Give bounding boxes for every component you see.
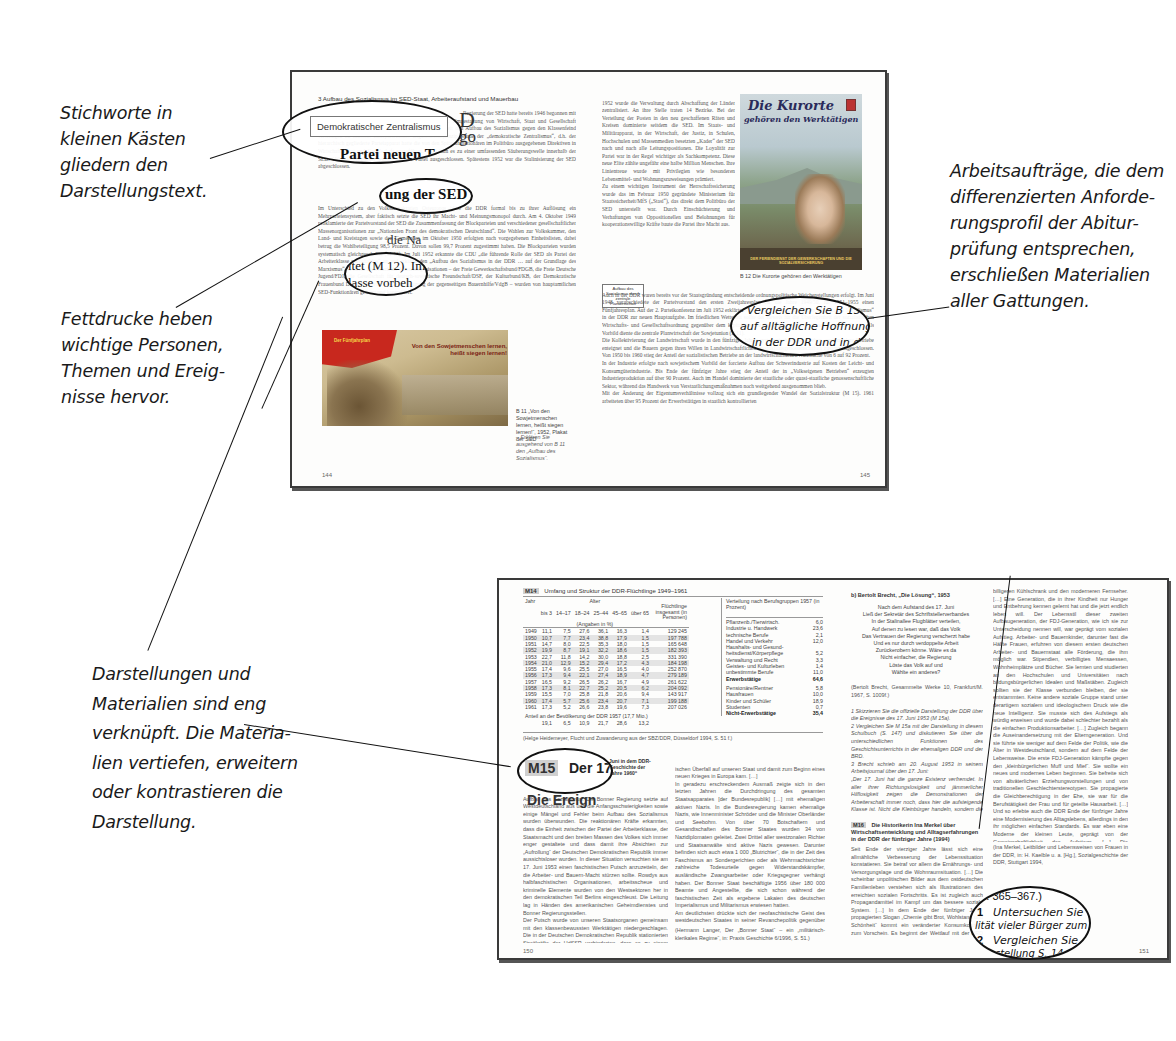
page-number-145: 145 <box>860 472 870 478</box>
m14-professions: Verteilung nach Berufsgruppen 1957 (in P… <box>721 598 823 716</box>
book-spread-144-145: 3 Aufbau des Sozialismus im SED-Staat, A… <box>290 70 887 488</box>
m14-source: (Helge Heidemeyer, Flucht und Zuwanderun… <box>523 732 823 741</box>
m14-table-wrap: Jahr Alter bis 3 14–17 18–24 25–44 45–65… <box>523 598 703 726</box>
m16-title: Die Historikerin Ina Merkel über Wirtsch… <box>851 822 978 842</box>
poem-line: Löste das Volk auf und <box>851 662 981 669</box>
poster-title-2: gehören den Werktätigen <box>744 114 858 124</box>
zoom-task-line-2: auf alltägliche Hoffnungen un <box>740 320 870 333</box>
zoom-task-line-3: in der DDR und in der Bun <box>752 336 870 349</box>
page-number-150: 150 <box>523 948 533 954</box>
poster-landscape <box>402 375 508 415</box>
zoom-task-2b: Darstellung S. 14 <box>977 948 1063 959</box>
connector-keywords <box>210 129 301 160</box>
m14-header-row-3: (Angaben in %) <box>523 621 689 628</box>
m16-text-right: billigeren Kühlschrank und den modernere… <box>993 588 1128 842</box>
magnifier-m12: ltet (M 12). Im lasse vorbeh <box>344 252 428 296</box>
page-number-144: 144 <box>322 472 332 478</box>
zoom-task-2-num: 2 <box>977 934 983 946</box>
zoom-drop-capital-2: go <box>459 127 476 147</box>
poster-bottom-text: DER FERIENDIENST DER GEWERKSCHAFTEN UND … <box>744 257 858 266</box>
magnifier-task-b13: – Vergleichen Sie B 13 mit auf alltäglic… <box>730 296 870 356</box>
book-spread-150-151: M14 Umfang und Struktur der DDR-Flüchtli… <box>497 578 1169 960</box>
magnifier-bold-sed: ung der SED ab <box>379 178 473 214</box>
zoom-task-1b: lität vieler Bürger zum <box>975 920 1087 931</box>
m14-rule <box>523 596 823 597</box>
magnifier-m15-heading: M15 Der 17. <box>517 748 613 794</box>
poem-line: Das Vertrauen der Regierung verscherzt h… <box>851 633 981 640</box>
m14-header-row-2: bis 3 14–17 18–24 25–44 45–65 über 65 Fl… <box>523 604 689 621</box>
zoom-pages: S. 365–367.) <box>979 890 1042 902</box>
poem-line: Auf denen zu lesen war, daß das Volk <box>851 626 981 633</box>
brecht-tasks: 1 Skizzieren Sie die offizielle Darstell… <box>851 700 983 812</box>
zoom-m15-sub: Die Ereign <box>527 792 596 808</box>
brecht-poem: Nach dem Aufstand des 17. JuniLieß der S… <box>851 604 981 676</box>
m15-text-col-1: Aufbau des Sozialismus. Die Bonner Regie… <box>523 788 668 943</box>
page-145: 1952 wurde die Verwaltung durch Abschaff… <box>590 72 887 486</box>
task-b11: – Erklären Sie ausgehend von B 11 den „A… <box>516 434 574 462</box>
m14-profession-list: Pflanzenb./Tierwirtsch.6,0Industrie u. H… <box>726 619 823 716</box>
poster-flag-text: Der Fünfjahrplan <box>334 338 374 343</box>
m14-share-row: 19,1 6,5 10,9 21,7 28,6 13,2 <box>523 720 689 726</box>
m14-body: 194911,17,527,636,116,31,4129 245195010,… <box>523 628 689 710</box>
m14-header: M14 Umfang und Struktur der DDR-Flüchtli… <box>523 588 687 594</box>
brecht-heading: b) Bertolt Brecht, „Die Lösung“, 1953 <box>851 592 950 598</box>
caption-b12: B 12 Die Kurorte gehören den Werktätigen <box>740 273 862 280</box>
keyword-box-demokratischer-zentralismus: Demokratischer Zentralismus <box>310 116 448 137</box>
annotation-materials: Darstellungen und Materialien sind eng v… <box>92 660 298 837</box>
poem-line: Wählte ein anderes? <box>851 669 981 676</box>
zoom-task-1: Untersuchen Sie <box>993 906 1083 919</box>
poem-line: Ließ der Sekretär des Schriftstellerverb… <box>851 611 981 618</box>
m14-label: M14 <box>523 588 539 594</box>
zoom-text-m12: ltet (M 12). Im <box>348 258 425 274</box>
poster-figures <box>327 360 407 426</box>
m16-source: (Ina Merkel, Leitbilder und Lebensweisen… <box>993 844 1128 867</box>
zoom-bold-heading: Partei neuen T <box>340 146 435 163</box>
zoom-task-2: Vergleichen Sie d <box>993 934 1089 947</box>
m14-profession-row: Nicht-Erwerbstätige35,4 <box>726 710 823 716</box>
poster-slogan: Von den Sowjetmenschen lernen, heißt sie… <box>407 343 507 357</box>
m15-subtitle: Juni in dem DDR-Geschichte der Jahre 196… <box>609 758 659 776</box>
m14-share-label-row: Anteil an der Bevölkerung der DDR 1957 (… <box>523 710 689 719</box>
m16-heading: M16 Die Historikerin Ina Merkel über Wir… <box>851 822 983 843</box>
poster-title-1: Die Kurorte <box>748 98 834 113</box>
brecht-source: (Bertolt Brecht, Gesammelte Werke 10, Fr… <box>851 684 983 699</box>
poster-b11-image: Der Fünfjahrplan Von den Sowjetmenschen … <box>322 330 508 426</box>
zoom-text-vorbeh: lasse vorbeh <box>348 275 413 291</box>
poem-line: Und es nur durch verdoppelte Arbeit <box>851 640 981 647</box>
page-number-151: 151 <box>1139 948 1149 954</box>
poem-line: In der Stalinallee Flugblätter verteilen… <box>851 618 981 625</box>
annotation-bold-print: Fettdrucke heben wichtige Personen, Them… <box>61 306 225 410</box>
m15-text-col-2: ischen Überfall auf unseren Staat und da… <box>675 758 825 926</box>
magnifier-keyword-box: Demokratischer Zentralismus Partei neuen… <box>282 100 462 164</box>
m14-table-row: 194911,17,527,636,116,31,4129 245 <box>523 628 689 635</box>
m14-profession-row: Erwerbstätige64,6 <box>726 676 823 682</box>
annotation-work-tasks: Arbeitsaufträge, die dem differenzierten… <box>950 158 1164 314</box>
poem-line: Nicht einfacher, die Regierung <box>851 654 981 661</box>
poem-line: Zurückerobern könne. Wäre es da <box>851 647 981 654</box>
zoom-text-nationale: die Na <box>387 232 421 248</box>
zoom-task-line-1: – Vergleichen Sie B 13 mit <box>738 304 870 317</box>
m14-title: Umfang und Struktur der DDR-Flüchtlinge … <box>544 588 687 594</box>
annotation-keywords: Stichworte in kleinen Kästen gliedern de… <box>60 100 207 204</box>
m16-text: Seit Ende der vierziger Jahre lässt sich… <box>851 846 983 938</box>
m16-label: M16 <box>851 822 866 828</box>
poster-emblem <box>846 99 856 111</box>
poster-b12-image: Die Kurorte gehören den Werktätigen DER … <box>740 94 862 270</box>
poster-couple <box>795 174 845 244</box>
zoom-m15-title: Der 17. <box>569 760 613 776</box>
zoom-text-sed: ung der SED ab <box>385 186 473 203</box>
magnifier-tasks-151: S. 365–367.) 1 Untersuchen Sie lität vie… <box>969 886 1091 960</box>
m15-source: (Hermann Langer, Der „Bonner Staat“ – ei… <box>675 927 825 942</box>
zoom-m15-label: M15 <box>525 760 558 776</box>
zoom-task-1-num: 1 <box>977 906 983 918</box>
text-column-right: 1952 wurde die Verwaltung durch Abschaff… <box>602 92 735 282</box>
m14-table: Jahr Alter bis 3 14–17 18–24 25–44 45–65… <box>523 598 689 726</box>
poem-line: Nach dem Aufstand des 17. Juni <box>851 604 981 611</box>
